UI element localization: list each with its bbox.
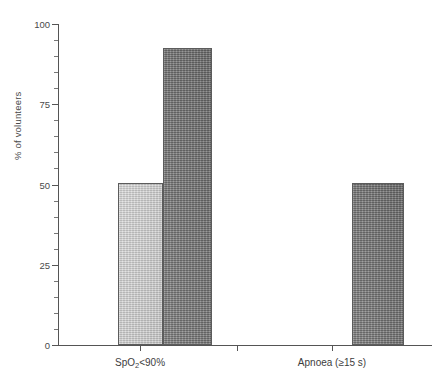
y-axis-label: % of volunteers — [12, 40, 23, 160]
x-tick — [237, 345, 238, 351]
x-tick-label: Apnoea (≥15 s) — [298, 357, 366, 368]
bar — [118, 183, 163, 345]
x-tick — [140, 345, 141, 351]
plot-area: 0255075100 SpO2<90%Apnoea (≥15 s) — [58, 24, 430, 345]
bars-layer — [58, 24, 430, 345]
x-tick-label: SpO2<90% — [115, 357, 165, 370]
bar — [352, 183, 404, 345]
y-tick-label: 25 — [39, 259, 50, 270]
y-tick-label: 75 — [39, 99, 50, 110]
bar-chart-figure: % of volunteers 0255075100 SpO2<90%Apnoe… — [0, 0, 443, 387]
y-tick-label: 50 — [39, 179, 50, 190]
bar — [163, 48, 212, 345]
y-tick-label: 0 — [45, 340, 50, 351]
y-tick-major — [52, 345, 58, 346]
y-tick-label: 100 — [34, 19, 50, 30]
x-tick — [332, 345, 333, 351]
x-axis-spine — [58, 345, 432, 346]
